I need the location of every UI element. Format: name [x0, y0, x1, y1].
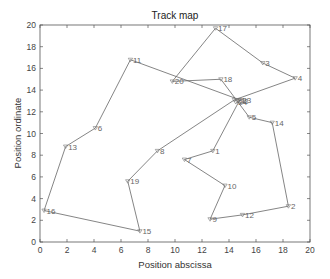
point-label: 11	[133, 56, 142, 65]
y-tick-label: 6	[31, 172, 36, 182]
point-label: 9	[213, 215, 218, 224]
y-tick-label: 20	[27, 20, 37, 30]
point-label: 20	[175, 77, 184, 86]
y-tick-label: 4	[31, 194, 36, 204]
x-tick-label: 10	[170, 245, 180, 255]
point-label: 14	[275, 119, 284, 128]
x-tick-label: 8	[146, 245, 151, 255]
y-tick-label: 2	[31, 215, 36, 225]
y-tick-label: 8	[31, 150, 36, 160]
y-tick-label: 14	[27, 85, 37, 95]
point-label: 24	[238, 98, 247, 107]
point-label: 6	[98, 124, 103, 133]
y-axis-label: Position ordinate	[12, 98, 23, 169]
point-label: 15	[142, 227, 151, 236]
x-tick-label: 16	[251, 245, 261, 255]
point-label: 18	[223, 75, 232, 84]
track-map-chart: Track map 02468101214161820 024681012141…	[0, 0, 330, 279]
x-tick-label: 14	[224, 245, 234, 255]
point-label: 8	[160, 147, 165, 156]
point-label: 12	[245, 211, 254, 220]
chart-title: Track map	[152, 10, 199, 21]
y-tick-label: 12	[27, 107, 37, 117]
x-tick-label: 20	[305, 245, 315, 255]
point-label: 4	[298, 74, 303, 83]
point-label: 5	[252, 113, 257, 122]
point-label: 3	[265, 59, 270, 68]
point-label: 19	[130, 177, 139, 186]
x-tick-label: 0	[38, 245, 43, 255]
y-tick-label: 18	[27, 42, 37, 52]
point-label: 7	[187, 156, 192, 165]
x-tick-label: 18	[278, 245, 288, 255]
point-label: 10	[227, 182, 236, 191]
y-tick-label: 10	[27, 129, 37, 139]
y-tick-label: 16	[27, 63, 37, 73]
point-label: 16	[47, 207, 56, 216]
point-label: 13	[68, 143, 77, 152]
x-tick-label: 6	[119, 245, 124, 255]
point-label: 17	[218, 24, 227, 33]
point-label: 2	[291, 202, 296, 211]
x-tick-label: 2	[65, 245, 70, 255]
point-label: 1	[215, 147, 220, 156]
x-tick-label: 4	[92, 245, 97, 255]
x-tick-label: 12	[197, 245, 207, 255]
x-axis-label: Position abscissa	[138, 259, 212, 270]
y-tick-label: 0	[31, 237, 36, 247]
